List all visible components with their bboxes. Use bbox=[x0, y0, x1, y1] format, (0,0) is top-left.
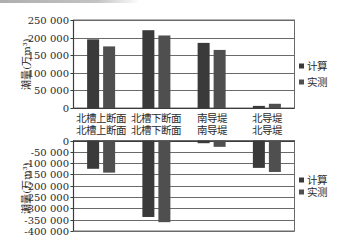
bar-calculated bbox=[253, 141, 265, 168]
y-axis-title: 潮量(万m³) bbox=[20, 162, 32, 213]
x-category-label: 北导堤 bbox=[252, 124, 283, 136]
legend-label-calculated: 计算 bbox=[307, 174, 327, 186]
bar-measured bbox=[158, 141, 170, 223]
y-tick-label: 150 000 bbox=[28, 50, 69, 61]
bar-measured bbox=[103, 141, 115, 173]
legend-label-calculated: 计算 bbox=[307, 60, 327, 72]
bar-calculated bbox=[142, 30, 154, 108]
x-category-label: 北槽上断面 bbox=[76, 112, 126, 124]
y-tick-label: 50 000 bbox=[34, 85, 69, 96]
bar-measured bbox=[214, 50, 226, 108]
y-tick-label: 200 000 bbox=[28, 33, 69, 44]
y-tick-label: 100 000 bbox=[28, 68, 69, 79]
y-axis-title: 潮量(万m³) bbox=[20, 38, 32, 89]
bar-calculated bbox=[253, 106, 265, 108]
y-tick-label: 250 000 bbox=[28, 15, 69, 26]
x-category-label: 南导堤 bbox=[197, 124, 228, 136]
y-tick-label: -50 000 bbox=[31, 147, 69, 158]
x-category-label: 北导堤 bbox=[252, 112, 283, 124]
bar-calculated bbox=[198, 43, 210, 108]
bar-measured bbox=[103, 46, 115, 108]
legend-swatch-calculated bbox=[299, 178, 304, 183]
bar-calculated bbox=[198, 141, 210, 144]
legend-swatch-measured bbox=[299, 80, 304, 85]
legend-swatch-measured bbox=[299, 190, 304, 195]
x-category-label: 北槽上断面 bbox=[76, 124, 126, 136]
bar-measured bbox=[269, 141, 281, 172]
bar-measured bbox=[214, 141, 226, 147]
x-category-label: 北槽下断面 bbox=[131, 112, 181, 124]
legend-label-measured: 实测 bbox=[307, 186, 327, 198]
bar-measured bbox=[269, 104, 281, 108]
x-category-label: 北槽下断面 bbox=[131, 124, 181, 136]
legend-swatch-calculated bbox=[299, 64, 304, 69]
y-tick-label: 0 bbox=[63, 136, 69, 147]
y-tick-label: 0 bbox=[63, 103, 69, 114]
tidal-volume-figure: 050 000100 000150 000200 000250 000北槽上断面… bbox=[0, 0, 344, 249]
bar-calculated bbox=[142, 141, 154, 217]
bar-calculated bbox=[87, 141, 99, 169]
legend-label-measured: 实测 bbox=[307, 76, 327, 88]
bar-calculated bbox=[87, 39, 99, 108]
bar-measured bbox=[158, 35, 170, 108]
flood-tide-volume-chart: 050 000100 000150 000200 000250 000北槽上断面… bbox=[20, 15, 328, 124]
ebb-tide-volume-chart: 0-50 000-100 000-150 000-200 000-250 000… bbox=[20, 124, 328, 237]
y-tick-label: -350 000 bbox=[24, 215, 69, 226]
x-category-label: 南导堤 bbox=[197, 112, 228, 124]
y-tick-label: -400 000 bbox=[24, 226, 69, 237]
